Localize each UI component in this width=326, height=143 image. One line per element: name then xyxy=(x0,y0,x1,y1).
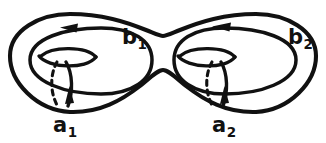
label-b2-subscript: 2 xyxy=(304,36,313,52)
label-a2-subscript: 2 xyxy=(227,124,236,140)
genus-two-surface-figure: b1 b2 a1 a2 xyxy=(0,0,326,143)
left-hole-upper-arc xyxy=(41,49,96,57)
label-a1-base: a xyxy=(53,113,67,137)
label-a1-subscript: 1 xyxy=(68,124,77,140)
label-b2: b2 xyxy=(288,27,312,48)
label-b1-subscript: 1 xyxy=(138,36,147,52)
label-b2-base: b xyxy=(288,25,303,49)
label-b1-base: b xyxy=(122,25,137,49)
right-hole-lower-arc xyxy=(178,56,235,66)
right-hole-upper-arc xyxy=(180,49,235,57)
right-inner-loop-b2-path xyxy=(174,28,296,94)
label-b1: b1 xyxy=(122,27,146,48)
label-a2-base: a xyxy=(212,113,226,137)
a1-cycle-dashed-back xyxy=(52,62,57,105)
label-a2: a2 xyxy=(212,115,236,136)
surface-drawing xyxy=(0,0,326,143)
label-a1: a1 xyxy=(53,115,77,136)
